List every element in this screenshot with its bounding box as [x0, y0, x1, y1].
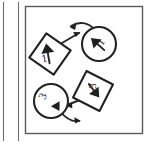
- node-circle-upper-right[interactable]: 1: [82, 27, 116, 61]
- node-circle-lower-left[interactable]: 3: [34, 84, 68, 118]
- node-number-3: 3: [86, 83, 98, 89]
- circle-outline-4: [34, 84, 68, 118]
- figure-root: 1 1 3 3: [0, 0, 153, 143]
- diagram-canvas: 1 1 3 3: [0, 0, 153, 143]
